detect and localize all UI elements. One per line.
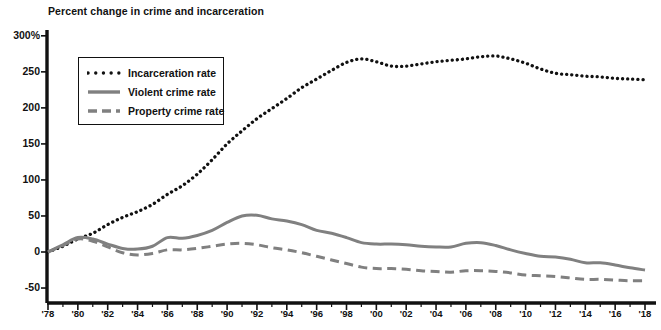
legend-label: Incarceration rate [128, 67, 216, 79]
percent-change-crime-incarceration-chart: Percent change in crime and incarceratio… [0, 0, 661, 330]
series-line-property-crime-rate [48, 239, 645, 281]
legend-swatch-solid-icon [87, 86, 121, 98]
legend-swatch-dotted-icon [87, 67, 121, 79]
legend-label: Property crime rate [128, 105, 224, 117]
chart-legend: Incarceration rateViolent crime rateProp… [78, 57, 224, 125]
legend-swatch-dashed-icon [87, 105, 121, 117]
legend-item-violent-crime-rate: Violent crime rate [87, 84, 216, 100]
legend-label: Violent crime rate [128, 86, 216, 98]
plot-area [0, 0, 661, 330]
series-line-violent-crime-rate [48, 215, 645, 270]
legend-item-incarceration-rate: Incarceration rate [87, 65, 216, 81]
legend-item-property-crime-rate: Property crime rate [87, 103, 224, 119]
